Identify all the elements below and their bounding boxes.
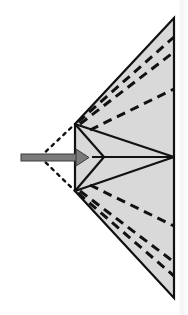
folding-diagram [0, 0, 188, 315]
push-arrow-icon [21, 149, 89, 166]
